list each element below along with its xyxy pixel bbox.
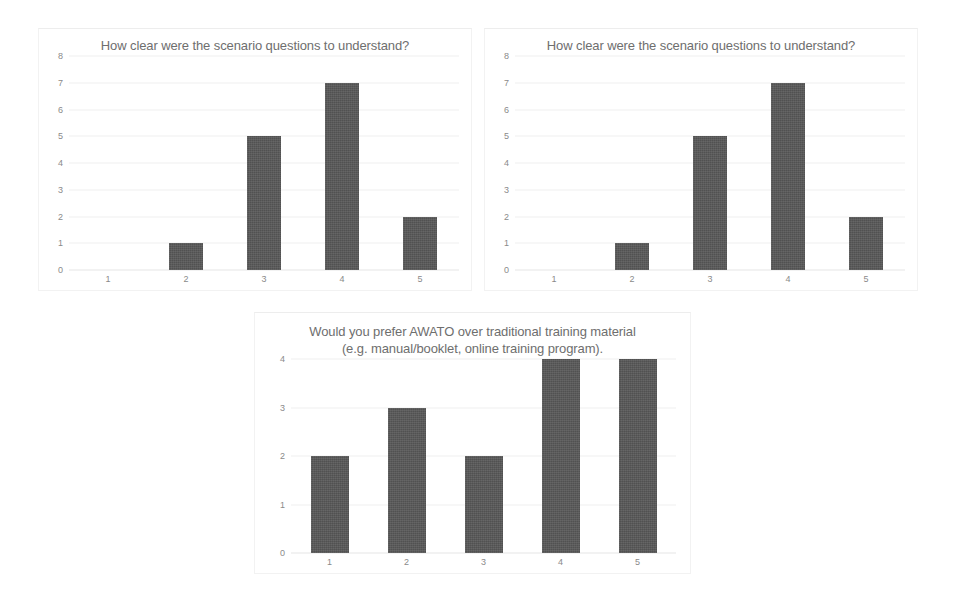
x-axis-tick-label: 2	[147, 270, 225, 288]
x-axis-tick-label: 4	[749, 270, 827, 288]
bar-slot	[522, 359, 599, 553]
y-axis-tick-label: 4	[58, 159, 63, 168]
y-axis: 876543210	[47, 56, 67, 270]
x-axis-tick-label: 2	[593, 270, 671, 288]
y-axis-tick-label: 4	[504, 159, 509, 168]
bar	[542, 359, 580, 553]
y-axis: 43210	[265, 359, 289, 553]
y-axis-tick-label: 1	[58, 239, 63, 248]
bar	[311, 456, 349, 553]
chart-panel-clarity-left: How clear were the scenario questions to…	[38, 28, 472, 291]
bar-slot	[515, 56, 593, 270]
bar-series	[291, 359, 676, 553]
y-axis-tick-label: 1	[280, 500, 285, 509]
x-axis-tick-label: 1	[515, 270, 593, 288]
bar-slot	[827, 56, 905, 270]
bar-slot	[303, 56, 381, 270]
bar	[849, 217, 883, 271]
y-axis-tick-label: 3	[280, 403, 285, 412]
x-axis-tick-label: 1	[69, 270, 147, 288]
x-axis-tick-label: 1	[291, 553, 368, 571]
bar-slot	[593, 56, 671, 270]
bar-slot	[671, 56, 749, 270]
chart-title: How clear were the scenario questions to…	[485, 29, 917, 56]
bar-slot	[368, 359, 445, 553]
chart-title: Would you prefer AWATO over traditional …	[255, 313, 690, 359]
chart-panel-awato-preference: Would you prefer AWATO over traditional …	[254, 312, 691, 574]
x-axis-tick-label: 3	[671, 270, 749, 288]
y-axis-tick-label: 7	[504, 78, 509, 87]
y-axis-tick-label: 2	[504, 212, 509, 221]
y-axis-tick-label: 4	[280, 355, 285, 364]
x-axis: 12345	[47, 270, 459, 290]
bar-slot	[291, 359, 368, 553]
y-axis-tick-label: 1	[504, 239, 509, 248]
bar	[615, 243, 649, 270]
y-axis-tick-label: 6	[504, 105, 509, 114]
plot-area: 876543210	[493, 56, 905, 270]
chart-panel-clarity-right: How clear were the scenario questions to…	[484, 28, 918, 291]
y-axis-tick-label: 5	[58, 132, 63, 141]
x-axis-tick-label: 3	[445, 553, 522, 571]
plot-area: 876543210	[47, 56, 459, 270]
bar-slot	[445, 359, 522, 553]
bar	[247, 136, 281, 270]
chart-title: How clear were the scenario questions to…	[39, 29, 471, 56]
bar-slot	[147, 56, 225, 270]
bar	[619, 359, 657, 553]
y-axis-tick-label: 3	[58, 185, 63, 194]
y-axis-tick-label: 7	[58, 78, 63, 87]
y-axis-tick-label: 2	[280, 452, 285, 461]
bar-slot	[381, 56, 459, 270]
bar	[169, 243, 203, 270]
y-axis-tick-label: 3	[504, 185, 509, 194]
y-axis-tick-label: 8	[58, 52, 63, 61]
bar	[465, 456, 503, 553]
y-axis: 876543210	[493, 56, 513, 270]
x-axis: 12345	[493, 270, 905, 290]
x-axis-tick-label: 3	[225, 270, 303, 288]
bar-series	[69, 56, 459, 270]
x-axis-tick-label: 5	[827, 270, 905, 288]
x-axis-tick-label: 2	[368, 553, 445, 571]
x-axis-tick-label: 4	[303, 270, 381, 288]
x-axis-tick-label: 5	[599, 553, 676, 571]
bar	[693, 136, 727, 270]
bar-series	[515, 56, 905, 270]
x-axis-tick-label: 5	[381, 270, 459, 288]
bar-slot	[69, 56, 147, 270]
bar-slot	[225, 56, 303, 270]
bar-slot	[749, 56, 827, 270]
y-axis-tick-label: 8	[504, 52, 509, 61]
bar	[403, 217, 437, 271]
bar	[325, 83, 359, 270]
bar	[771, 83, 805, 270]
x-axis-tick-label: 4	[522, 553, 599, 571]
y-axis-tick-label: 5	[504, 132, 509, 141]
bar	[388, 408, 426, 554]
bar-slot	[599, 359, 676, 553]
y-axis-tick-label: 6	[58, 105, 63, 114]
y-axis-tick-label: 2	[58, 212, 63, 221]
plot-area: 43210	[265, 359, 676, 553]
x-axis: 12345	[265, 553, 676, 573]
